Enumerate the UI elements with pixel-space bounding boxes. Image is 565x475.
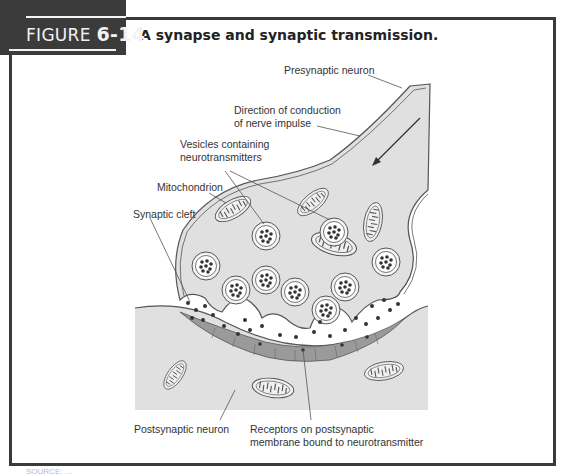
label-synaptic-cleft: Synaptic cleft bbox=[133, 208, 195, 221]
label-vesicles-line2: neurotransmitters bbox=[180, 151, 262, 164]
tag-rule-bottom bbox=[9, 49, 116, 51]
label-receptors-line2: membrane bound to neurotransmitter bbox=[250, 436, 423, 449]
label-presynaptic-neuron: Presynaptic neuron bbox=[284, 64, 374, 77]
label-receptors-line1: Receptors on postsynaptic bbox=[250, 423, 374, 436]
label-direction-line1: Direction of conduction bbox=[234, 104, 341, 117]
source-note: SOURCE: … bbox=[26, 467, 73, 475]
label-vesicles-line1: Vesicles containing bbox=[180, 138, 269, 151]
figure-num: 6-14 bbox=[96, 23, 145, 45]
figure-number: FIGURE 6-14 bbox=[26, 23, 145, 45]
figure-prefix: FIGURE bbox=[26, 25, 91, 45]
figure-tag: FIGURE 6-14 bbox=[0, 0, 126, 55]
label-direction-line2: of nerve impulse bbox=[234, 117, 311, 130]
synapse-diagram bbox=[0, 0, 565, 475]
tag-rule-top bbox=[26, 16, 126, 18]
label-mitochondrion: Mitochondrion bbox=[157, 181, 223, 194]
label-postsynaptic-neuron: Postsynaptic neuron bbox=[134, 423, 229, 436]
